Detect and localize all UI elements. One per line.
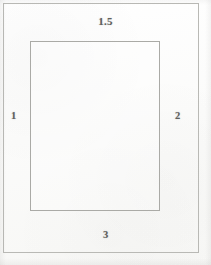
left-margin-label: 1 bbox=[11, 111, 16, 122]
right-margin-label: 2 bbox=[175, 111, 180, 122]
bottom-margin-label: 3 bbox=[0, 230, 211, 241]
text-block-rectangle bbox=[30, 41, 160, 211]
top-margin-label: 1.5 bbox=[0, 16, 211, 27]
margin-diagram-canvas: 1.5 1 2 3 bbox=[0, 0, 211, 265]
